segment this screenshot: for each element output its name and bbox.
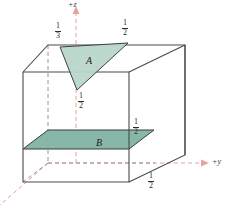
fraction-numerator: 1: [148, 172, 154, 180]
z-axis-label: +z: [68, 1, 77, 9]
region-a-label: A: [86, 56, 92, 66]
region-a-shape: [60, 43, 128, 90]
fraction-denominator: 2: [148, 182, 154, 190]
geometry-figure: +z +y A B 1 3 1 2 1 2 1 2 1 2: [0, 0, 234, 205]
measurement-one-third: 1 3: [55, 22, 61, 41]
fraction-numerator: 1: [55, 22, 61, 30]
measurement-apex-half: 1 2: [78, 92, 84, 111]
fraction-numerator: 1: [122, 19, 128, 27]
fraction-numerator: 1: [78, 92, 84, 100]
axis-group: [0, 6, 209, 205]
region-b-label: B: [96, 138, 102, 148]
measurement-top-right-half: 1 2: [122, 19, 128, 38]
region-a-polygon: [60, 43, 128, 90]
hidden-edge-bottom-back-left: [23, 163, 48, 182]
x-axis-line: [0, 163, 48, 205]
y-axis-label: +y: [212, 158, 221, 166]
fraction-numerator: 1: [133, 118, 139, 126]
fraction-denominator: 2: [133, 128, 139, 136]
measurement-right-edge-half: 1 2: [133, 118, 139, 137]
measurement-bottom-right-half: 1 2: [148, 172, 154, 191]
y-axis-arrowhead: [201, 160, 209, 167]
right-face-top-edge: [129, 45, 185, 72]
cube-diagram-svg: [0, 0, 234, 205]
fraction-denominator: 2: [78, 102, 84, 110]
fraction-denominator: 2: [122, 29, 128, 37]
fraction-denominator: 3: [55, 32, 61, 40]
